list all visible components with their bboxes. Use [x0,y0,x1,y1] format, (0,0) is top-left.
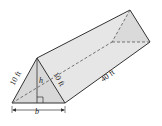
label-base: b [35,107,39,116]
arrow-right-icon [61,108,65,111]
label-left-side: 10 ft [8,69,24,87]
label-height: h [39,76,43,85]
arrow-left-icon [12,108,16,111]
prism-svg: 10 ft 10 ft h b 40 ft [0,0,162,126]
triangular-prism-diagram: 10 ft 10 ft h b 40 ft [0,0,162,126]
